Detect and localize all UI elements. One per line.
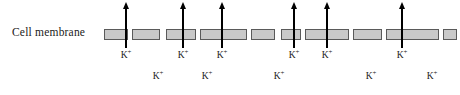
arrow-head-icon	[291, 2, 297, 9]
potassium-ion-label-lower: K+	[366, 71, 377, 81]
potassium-ion-label-lower: K+	[153, 71, 164, 81]
membrane-segment	[132, 29, 160, 40]
ion-flow-arrow	[293, 8, 295, 48]
membrane-segment	[386, 29, 439, 40]
membrane-segment	[200, 29, 247, 40]
potassium-ion-label-lower: K+	[274, 71, 285, 81]
potassium-ion-label-upper: K+	[217, 50, 228, 60]
potassium-ion-label-upper: K+	[322, 50, 333, 60]
arrow-head-icon	[324, 2, 330, 9]
membrane-segment	[353, 29, 382, 40]
arrow-head-icon	[180, 2, 186, 9]
potassium-ion-label-upper: K+	[121, 50, 132, 60]
membrane-segment	[281, 29, 301, 40]
potassium-ion-label-upper: K+	[289, 50, 300, 60]
potassium-ion-label-upper: K+	[397, 50, 408, 60]
arrow-head-icon	[219, 2, 225, 9]
potassium-ion-label-lower: K+	[202, 71, 213, 81]
membrane-segment	[443, 29, 457, 40]
ion-flow-arrow	[221, 8, 223, 48]
ion-flow-arrow	[326, 8, 328, 48]
membrane-segment	[251, 29, 275, 40]
ion-flow-arrow	[401, 8, 403, 48]
cell-membrane-diagram: Cell membrane K+K+K+K+K+K+K+K+K+K+K+	[0, 0, 460, 95]
potassium-ion-label-upper: K+	[178, 50, 189, 60]
membrane-segment	[166, 29, 196, 40]
arrow-head-icon	[123, 2, 129, 9]
potassium-ion-label-lower: K+	[427, 71, 438, 81]
ion-flow-arrow	[125, 8, 127, 48]
cell-membrane-label: Cell membrane	[12, 26, 85, 38]
arrow-head-icon	[399, 2, 405, 9]
ion-flow-arrow	[182, 8, 184, 48]
